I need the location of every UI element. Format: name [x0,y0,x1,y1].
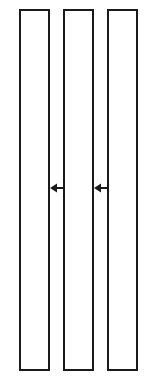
right-box [107,9,138,371]
middle-box [63,9,94,371]
arrow-right-to-middle-icon [94,184,107,193]
arrow-middle-to-left-icon [50,184,63,193]
left-box [19,9,50,371]
